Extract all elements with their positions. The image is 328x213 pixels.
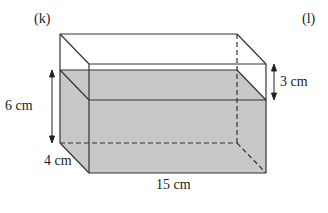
edge-top-left bbox=[60, 34, 89, 64]
water-front-face bbox=[89, 100, 266, 173]
height-label: 6 cm bbox=[5, 99, 33, 113]
part-label-k: (k) bbox=[34, 12, 50, 26]
length-label: 15 cm bbox=[156, 178, 191, 192]
gap-arrow bbox=[272, 64, 277, 100]
edge-top-right bbox=[237, 34, 266, 64]
height-arrow bbox=[50, 70, 55, 143]
width-label: 4 cm bbox=[44, 154, 72, 168]
tank-diagram: (k) (l) 6 cm 3 cm 4 cm 15 cm bbox=[0, 0, 328, 213]
water-surface bbox=[60, 70, 266, 100]
gap-label: 3 cm bbox=[280, 75, 308, 89]
part-label-l: (l) bbox=[302, 12, 315, 26]
